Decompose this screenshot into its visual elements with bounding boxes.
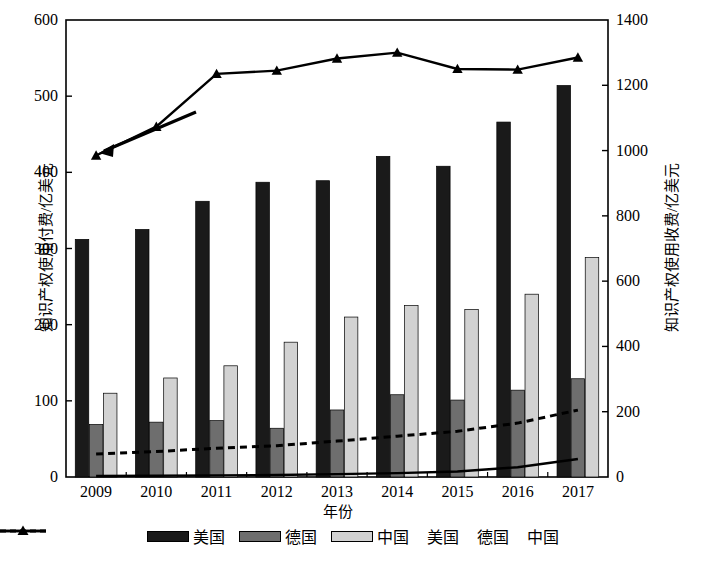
bar-中国-2009	[103, 393, 117, 477]
legend-item-3[interactable]: 美国	[423, 524, 459, 548]
bar-中国-2010	[164, 378, 178, 477]
bar-美国-2012	[256, 182, 270, 477]
legend-bar-swatch	[331, 531, 373, 542]
bar-德国-2012	[270, 428, 284, 477]
annotation-arrowhead-left	[99, 144, 114, 157]
y-tick-label-right: 0	[616, 469, 668, 485]
bar-中国-2011	[224, 366, 238, 477]
bar-美国-2014	[376, 156, 390, 477]
bar-美国-2009	[75, 239, 89, 477]
legend-bar-swatch	[239, 531, 281, 542]
legend-item-0[interactable]: 美国	[147, 524, 225, 548]
x-tick-label: 2013	[307, 484, 367, 500]
y-tick-label-right: 800	[616, 208, 668, 224]
bar-德国-2015	[451, 400, 465, 477]
y-tick-label-left: 500	[14, 88, 58, 104]
x-tick-label: 2014	[367, 484, 427, 500]
bar-美国-2015	[437, 166, 451, 477]
legend-label: 中国	[377, 524, 409, 548]
x-tick-label: 2016	[488, 484, 548, 500]
x-tick-label: 2015	[427, 484, 487, 500]
y-tick-label-left: 0	[14, 469, 58, 485]
bar-中国-2017	[585, 258, 599, 477]
x-tick-label: 2010	[126, 484, 186, 500]
annotation-arrow-left	[104, 112, 196, 151]
legend-item-2[interactable]: 中国	[331, 524, 409, 548]
legend-item-4[interactable]: 德国	[473, 524, 509, 548]
legend-bar-swatch	[147, 531, 189, 542]
legend-line-swatch	[0, 524, 46, 538]
bar-中国-2014	[405, 306, 419, 477]
chart-figure: 知识产权使用付费/亿美元 知识产权使用收费/亿美元 年份 01002003004…	[0, 0, 706, 567]
bar-德国-2016	[511, 390, 524, 477]
legend-label: 美国	[427, 524, 459, 548]
bar-中国-2015	[465, 309, 479, 477]
legend-item-1[interactable]: 德国	[239, 524, 317, 548]
x-tick-label: 2011	[187, 484, 247, 500]
bar-美国-2011	[196, 201, 210, 477]
y-tick-label-right: 1400	[616, 12, 668, 28]
bar-德国-2010	[150, 422, 164, 477]
bar-德国-2017	[571, 379, 585, 477]
bar-德国-2009	[89, 424, 103, 477]
y-tick-label-right: 200	[616, 404, 668, 420]
y-tick-label-right: 1200	[616, 77, 668, 93]
x-tick-label: 2012	[247, 484, 307, 500]
bar-德国-2013	[330, 410, 344, 477]
legend-item-5[interactable]: 中国	[523, 524, 559, 548]
bar-美国-2017	[557, 86, 571, 477]
bar-中国-2016	[525, 294, 539, 477]
chart-legend: 美国德国中国美国德国中国	[0, 524, 706, 548]
legend-label: 美国	[193, 524, 225, 548]
y-tick-label-left: 100	[14, 393, 58, 409]
x-tick-label: 2017	[548, 484, 608, 500]
y-tick-label-right: 600	[616, 273, 668, 289]
x-tick-label: 2009	[66, 484, 126, 500]
y-tick-label-left: 600	[14, 12, 58, 28]
bar-中国-2013	[344, 317, 358, 477]
y-tick-label-right: 1000	[616, 143, 668, 159]
legend-label: 中国	[527, 524, 559, 548]
y-tick-label-left: 400	[14, 164, 58, 180]
legend-label: 德国	[285, 524, 317, 548]
chart-plot-area	[0, 0, 706, 567]
bar-美国-2010	[135, 229, 149, 477]
x-axis-title: 年份	[0, 500, 676, 521]
bar-美国-2013	[316, 181, 330, 477]
legend-label: 德国	[477, 524, 509, 548]
y-tick-label-right: 400	[616, 338, 668, 354]
bar-中国-2012	[284, 342, 298, 477]
y-tick-label-left: 300	[14, 241, 58, 257]
y-tick-label-left: 200	[14, 317, 58, 333]
